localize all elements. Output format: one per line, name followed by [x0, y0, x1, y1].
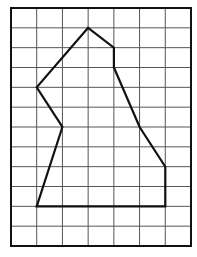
polygon-shape	[37, 28, 166, 207]
grid-diagram	[0, 0, 197, 257]
grid-lines	[11, 8, 191, 246]
